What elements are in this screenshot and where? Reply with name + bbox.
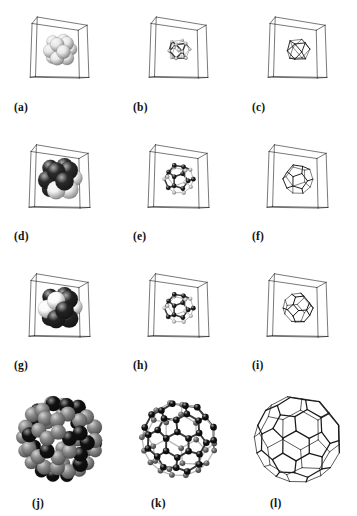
panel-label: (l) (270, 497, 281, 509)
panel-label: (a) (14, 101, 28, 113)
panel-label: (d) (14, 230, 29, 242)
panel-label: (i) (252, 359, 263, 371)
structure-diagram-l (239, 387, 357, 495)
structure-diagram-b (125, 2, 233, 102)
structure-diagram-d (6, 131, 114, 231)
panel-label: (g) (14, 359, 28, 371)
panel-b: (b) (119, 0, 238, 129)
structure-diagram-c (244, 2, 352, 102)
figure-grid: (a)(b)(c)(d)(e)(f)(g)(h)(i)(j)(k)(l) (0, 0, 357, 516)
panel-label: (h) (133, 359, 148, 371)
structure-diagram-e (125, 131, 233, 231)
panel-f: (f) (238, 129, 357, 258)
panel-l: (l) (238, 387, 357, 516)
structure-diagram-f (244, 131, 352, 231)
panel-h: (h) (119, 258, 238, 387)
panel-i: (i) (238, 258, 357, 387)
panel-d: (d) (0, 129, 119, 258)
panel-label: (j) (32, 497, 44, 509)
structure-diagram-g (6, 260, 114, 360)
panel-label: (f) (252, 230, 264, 242)
panel-c: (c) (238, 0, 357, 129)
panel-j: (j) (0, 387, 119, 516)
structure-diagram-a (6, 2, 114, 102)
structure-diagram-i (244, 260, 352, 360)
panel-g: (g) (0, 258, 119, 387)
structure-diagram-h (125, 260, 233, 360)
panel-k: (k) (119, 387, 238, 516)
panel-e: (e) (119, 129, 238, 258)
panel-label: (c) (252, 101, 265, 113)
panel-label: (e) (133, 230, 146, 242)
panel-label: (b) (133, 101, 148, 113)
structure-diagram-j (1, 387, 119, 495)
panel-label: (k) (151, 497, 166, 509)
structure-diagram-k (120, 387, 238, 495)
panel-a: (a) (0, 0, 119, 129)
